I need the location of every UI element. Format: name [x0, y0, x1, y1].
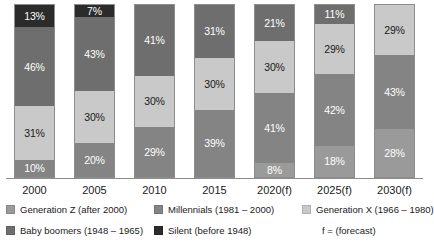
bar-segment-millennials: 43%: [375, 55, 414, 129]
x-axis-label: 2020(f): [254, 181, 295, 199]
stacked-bar: 13%46%31%10%: [14, 4, 55, 178]
bar-segment-genz: 28%: [375, 129, 414, 177]
bar-segment-genz: 18%: [315, 146, 354, 177]
x-axis-label: 2005: [74, 181, 115, 199]
legend-label: Generation X (1966 – 1980): [316, 204, 434, 215]
bar-segment-boomers: 46%: [15, 27, 54, 106]
bar-column: 7%43%30%20%: [74, 4, 115, 178]
bar-segment-genx: 30%: [255, 41, 294, 93]
legend-label: Millennials (1981 – 2000): [168, 204, 274, 215]
stacked-bar: 41%30%29%: [134, 4, 175, 178]
bar-segment-boomers: 31%: [195, 5, 234, 58]
bar-segment-silent: 7%: [75, 5, 114, 17]
bar-segment-silent: 13%: [15, 5, 54, 27]
legend-item-genx[interactable]: Generation X (1966 – 1980): [302, 204, 426, 215]
x-axis-label: 2025(f): [314, 181, 355, 199]
legend-swatch-silent-icon: [154, 226, 163, 235]
forecast-note: f = (forecast): [302, 225, 376, 236]
bar-column: 31%30%39%: [194, 4, 235, 178]
x-axis-label: 2010: [134, 181, 175, 199]
bar-segment-millennials: 42%: [315, 74, 354, 146]
legend-swatch-genz-icon: [6, 205, 15, 214]
bar-segment-genx: 29%: [375, 5, 414, 55]
chart-legend: Generation Z (after 2000)Millennials (19…: [6, 204, 426, 246]
bar-column: 41%30%29%: [134, 4, 175, 178]
bar-column: 11%29%42%18%: [314, 4, 355, 178]
x-axis-line: [6, 178, 423, 179]
legend-item-silent[interactable]: Silent (before 1948): [154, 225, 302, 236]
legend-row-1: Generation Z (after 2000)Millennials (19…: [6, 204, 426, 225]
legend-item-genz[interactable]: Generation Z (after 2000): [6, 204, 154, 215]
plot-area: 13%46%31%10%7%43%30%20%41%30%29%31%30%39…: [0, 4, 429, 178]
x-axis-tick-labels: 20002005201020152020(f)2025(f)2030(f): [0, 181, 429, 199]
legend-item-millennials[interactable]: Millennials (1981 – 2000): [154, 204, 302, 215]
stacked-bar: 21%30%41%8%: [254, 4, 295, 178]
legend-row-2: Baby boomers (1948 – 1965)Silent (before…: [6, 225, 426, 246]
bar-segment-boomers: 21%: [255, 5, 294, 41]
legend-label: Silent (before 1948): [168, 225, 251, 236]
legend-label: Generation Z (after 2000): [20, 204, 127, 215]
x-axis-label: 2000: [14, 181, 55, 199]
bar-segment-millennials: 39%: [195, 110, 234, 177]
stacked-bar: 7%43%30%20%: [74, 4, 115, 178]
bar-column: 21%30%41%8%: [254, 4, 295, 178]
bar-segment-genx: 30%: [195, 58, 234, 110]
stacked-bar: 11%29%42%18%: [314, 4, 355, 178]
legend-swatch-boomers-icon: [6, 226, 15, 235]
legend-label: Baby boomers (1948 – 1965): [20, 225, 143, 236]
bar-segment-millennials: 10%: [15, 160, 54, 177]
bar-segment-genx: 30%: [135, 76, 174, 128]
bar-segment-millennials: 29%: [135, 127, 174, 177]
bar-segment-genx: 31%: [15, 106, 54, 159]
bar-segment-genz: 8%: [255, 163, 294, 177]
legend-swatch-genx-icon: [302, 205, 311, 214]
bar-column: 13%46%31%10%: [14, 4, 55, 178]
bar-column: 29%43%28%: [374, 4, 415, 178]
bar-segment-genx: 29%: [315, 24, 354, 74]
legend-swatch-millennials-icon: [154, 205, 163, 214]
bar-segment-millennials: 20%: [75, 143, 114, 177]
stacked-bar: 31%30%39%: [194, 4, 235, 178]
bar-segment-millennials: 41%: [255, 93, 294, 164]
bar-segment-boomers: 11%: [315, 5, 354, 24]
stacked-bar: 29%43%28%: [374, 4, 415, 178]
legend-item-boomers[interactable]: Baby boomers (1948 – 1965): [6, 225, 154, 236]
x-axis-label: 2015: [194, 181, 235, 199]
x-axis-label: 2030(f): [374, 181, 415, 199]
bar-segment-genx: 30%: [75, 91, 114, 143]
bar-segment-boomers: 41%: [135, 5, 174, 76]
bar-segment-boomers: 43%: [75, 17, 114, 91]
